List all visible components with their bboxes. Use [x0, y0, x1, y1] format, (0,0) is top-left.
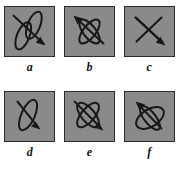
figure-panel-a: a	[0, 0, 60, 85]
two-crossing-ellipses-with-up-left-arrow	[65, 7, 114, 56]
panel-c-label: c	[147, 61, 152, 73]
panel-c-box	[124, 6, 175, 57]
panel-a-box	[4, 6, 55, 57]
panel-f-box	[124, 91, 175, 142]
panel-a-label: a	[27, 61, 33, 73]
panel-d-box	[4, 91, 55, 142]
two-parallel-ellipses-with-diagonal-arrow	[5, 7, 54, 56]
figure-panel-f: f	[119, 85, 179, 170]
panel-e-box	[64, 91, 115, 142]
single-narrow-ellipse-with-down-right-arrow	[5, 92, 54, 141]
figure-panel-d: d	[0, 85, 60, 170]
two-crossing-ellipses-with-down-right-arrow	[65, 92, 114, 141]
panel-b-label: b	[86, 61, 92, 73]
panel-grid: a b	[0, 0, 179, 170]
figure-panel-b: b	[60, 0, 120, 85]
panel-d-label: d	[27, 146, 33, 158]
figure-container: a b	[0, 0, 179, 170]
panel-b-box	[64, 6, 115, 57]
figure-panel-c: c	[119, 0, 179, 85]
panel-e-label: e	[87, 146, 92, 158]
panel-f-label: f	[147, 146, 151, 158]
crossed-lines-with-down-right-arrow	[125, 7, 174, 56]
figure-panel-e: e	[60, 85, 120, 170]
two-crossing-ellipses-with-up-left-arrow	[125, 92, 174, 141]
